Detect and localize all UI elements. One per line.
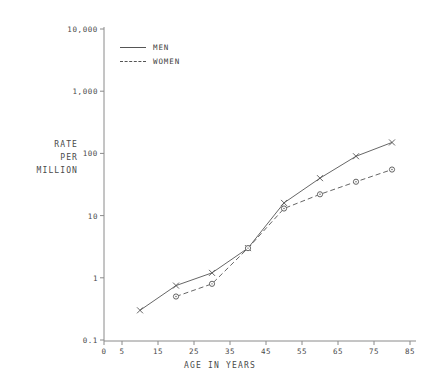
series-line-men [140,142,392,310]
data-point-center-dot [391,169,392,170]
data-series-layer [137,139,395,313]
y-tick-label: 10,000 [40,25,98,34]
data-point-center-dot [319,194,320,195]
data-point-marker-x [209,270,215,276]
legend-swatch-women [120,61,146,62]
series-men [137,139,395,313]
x-axis-label: AGE IN YEARS [0,361,440,370]
x-tick-label: 35 [225,347,235,356]
data-point-marker-x [281,200,287,206]
data-point-marker-x [173,283,179,289]
x-tick-label: 55 [297,347,307,356]
y-tick-label: 100 [40,149,98,158]
y-tick-label: 10 [40,211,98,220]
plot-area [0,0,440,388]
chart-legend: MEN WOMEN [120,40,180,68]
y-tick-label: 0.1 [40,336,98,345]
data-point-center-dot [175,296,176,297]
x-tick-label: 0 [101,347,106,356]
y-axis-label-line: MILLION [6,164,78,177]
legend-item-men: MEN [120,40,180,54]
data-point-center-dot [211,283,212,284]
x-tick-label: 45 [261,347,271,356]
y-tick-label: 1,000 [40,87,98,96]
x-tick-label: 65 [333,347,343,356]
data-point-marker-x [137,307,143,313]
data-point-center-dot [247,247,248,248]
y-axis-ticks [100,29,104,340]
chart-figure: RATEPERMILLION AGE IN YEARS MEN WOMEN 10… [0,0,440,388]
data-point-center-dot [283,208,284,209]
legend-item-women: WOMEN [120,54,180,68]
data-point-marker-x [389,139,395,145]
legend-swatch-men [120,47,146,48]
x-tick-label: 15 [153,347,163,356]
chart-axes [100,27,416,345]
x-tick-label: 85 [405,347,415,356]
series-line-women [176,170,392,297]
data-point-marker-x [353,153,359,159]
data-point-marker-x [317,175,323,181]
x-tick-label: 75 [369,347,379,356]
y-tick-label: 1 [40,273,98,282]
legend-label-men: MEN [153,43,169,52]
series-women [173,167,394,299]
x-axis-ticks [104,341,410,345]
legend-label-women: WOMEN [153,57,180,66]
x-tick-label: 25 [189,347,199,356]
data-point-center-dot [355,181,356,182]
x-tick-label: 5 [119,347,124,356]
